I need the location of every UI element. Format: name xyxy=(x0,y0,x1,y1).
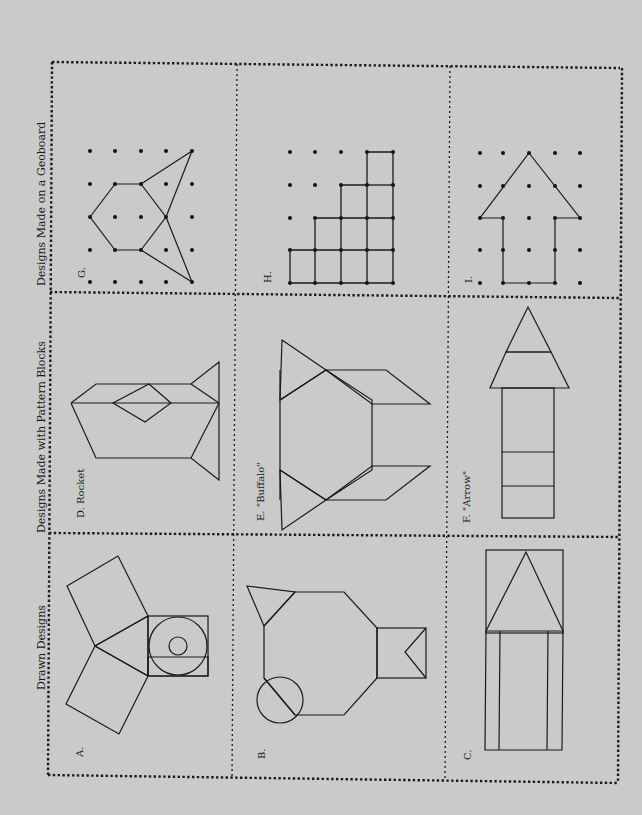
figure-g-geoboard xyxy=(88,149,194,284)
item-label-a: A. xyxy=(74,747,85,757)
column-dividers xyxy=(232,64,450,781)
item-label-c: C. xyxy=(462,750,473,760)
item-label-i: I. xyxy=(463,276,474,283)
figure-h-geoboard xyxy=(288,150,395,285)
figure-d-rocket xyxy=(71,362,219,480)
item-label-f: F. "Arrow" xyxy=(461,471,472,523)
section-title-geoboard: Designs Made on a Geoboard xyxy=(35,122,48,286)
worksheet-drawing xyxy=(0,0,642,815)
item-label-e: E. "Buffalo" xyxy=(255,462,266,521)
outer-border xyxy=(48,62,622,783)
figure-f-arrow xyxy=(490,307,569,518)
figure-c-drawn xyxy=(485,550,563,750)
figure-e-buffalo xyxy=(280,340,430,530)
figure-a-drawn xyxy=(66,556,208,734)
item-label-h: H. xyxy=(262,271,273,283)
item-label-d: D. Rocket xyxy=(75,469,86,518)
figure-b-drawn xyxy=(247,586,426,723)
item-label-g: G. xyxy=(76,267,87,278)
worksheet-page: Designs Made on a Geoboard Designs Made … xyxy=(0,0,642,815)
section-title-pattern-blocks: Designs Made with Pattern Blocks xyxy=(35,341,48,533)
section-title-drawn: Drawn Designs xyxy=(35,605,48,690)
item-label-b: B. xyxy=(256,748,267,759)
figure-i-geoboard xyxy=(478,151,582,285)
